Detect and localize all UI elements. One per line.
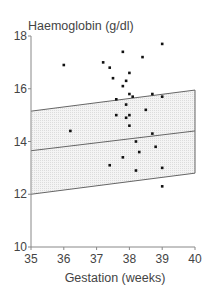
x-tick-label: 40 [188,252,202,266]
y-tick-label: 14 [14,135,28,149]
data-point [151,132,154,135]
data-point [161,185,164,188]
data-point [125,103,128,106]
data-point [135,140,138,143]
data-point [115,98,118,101]
data-point [154,145,157,148]
data-point [138,151,141,154]
data-point [122,156,125,159]
data-point [69,130,72,133]
y-tick-label: 16 [14,82,28,96]
data-point [108,66,111,69]
data-point [108,164,111,167]
data-point [122,85,125,88]
band-fill [31,90,195,194]
data-point [135,169,138,172]
reference-band [31,90,195,194]
y-tick-label: 18 [14,29,28,43]
data-point [102,61,105,64]
data-point [151,93,154,96]
y-axis-title: Haemoglobin (g/dl) [28,19,134,33]
data-point [125,116,128,119]
data-point [161,95,164,98]
data-point [161,167,164,170]
x-tick-label: 36 [57,252,71,266]
data-point [112,77,115,80]
data-point [141,56,144,59]
x-tick-label: 37 [90,252,104,266]
scatter-chart: 1012141618353637383940Haemoglobin (g/dl)… [0,0,212,297]
data-point [131,95,134,98]
y-tick-label: 12 [14,187,28,201]
data-point [63,64,66,67]
data-point [161,43,164,46]
x-tick-label: 35 [24,252,38,266]
x-axis-title: Gestation (weeks) [65,271,166,285]
data-point [122,51,125,54]
x-tick-label: 38 [123,252,137,266]
data-point [125,80,128,83]
data-point [145,109,148,112]
data-point [128,114,131,117]
data-point [115,114,118,117]
data-point [128,124,131,127]
data-point [128,93,131,96]
x-tick-label: 39 [156,252,170,266]
data-point [128,72,131,75]
